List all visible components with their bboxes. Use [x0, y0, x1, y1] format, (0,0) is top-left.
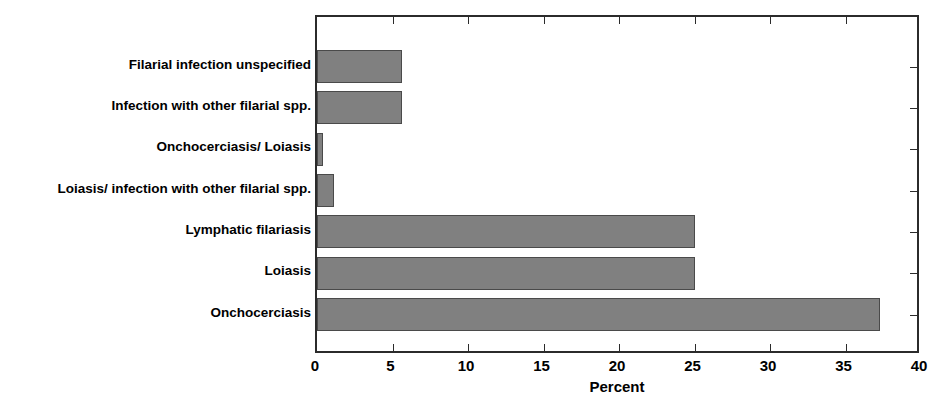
category-label: Infection with other filarial spp.	[111, 98, 311, 113]
x-tick-top	[695, 17, 696, 24]
category-label: Onchocerciasis	[210, 305, 311, 320]
category-label: Lymphatic filariasis	[185, 222, 311, 237]
bar	[317, 174, 334, 207]
x-tick-label: 5	[386, 357, 394, 375]
x-tick	[544, 344, 545, 351]
x-tick-label: 40	[911, 357, 928, 375]
x-tick-label: 10	[458, 357, 475, 375]
category-label: Loiasis/ infection with other filarial s…	[57, 181, 311, 196]
y-tick-right	[910, 273, 917, 274]
x-tick-top	[770, 17, 771, 24]
x-tick	[846, 344, 847, 351]
x-tick-top	[468, 17, 469, 24]
x-tick-label: 0	[311, 357, 319, 375]
x-tick-label: 20	[609, 357, 626, 375]
x-tick-label: 35	[835, 357, 852, 375]
y-tick-right	[910, 108, 917, 109]
x-axis-title: Percent	[589, 378, 644, 395]
bar	[317, 257, 695, 290]
x-tick-top	[846, 17, 847, 24]
x-tick-top	[544, 17, 545, 24]
x-tick-label: 30	[760, 357, 777, 375]
plot-area	[315, 15, 919, 353]
x-tick	[695, 344, 696, 351]
x-tick	[770, 344, 771, 351]
y-tick-right	[910, 315, 917, 316]
category-label: Onchocerciasis/ Loiasis	[156, 139, 311, 154]
y-tick-right	[910, 149, 917, 150]
x-tick-label: 15	[533, 357, 550, 375]
bar	[317, 91, 402, 124]
bar	[317, 133, 323, 166]
x-tick-top	[619, 17, 620, 24]
bar-chart-figure: 0510152025303540 Filarial infection unsp…	[0, 0, 940, 411]
bars-layer	[317, 17, 917, 351]
x-tick	[393, 344, 394, 351]
y-tick-right	[910, 67, 917, 68]
bar	[317, 298, 880, 331]
x-tick-top	[393, 17, 394, 24]
y-tick-right	[910, 191, 917, 192]
x-tick	[619, 344, 620, 351]
bar	[317, 50, 402, 83]
category-label: Loiasis	[264, 263, 311, 278]
x-tick-label: 25	[684, 357, 701, 375]
y-tick-right	[910, 232, 917, 233]
x-tick	[468, 344, 469, 351]
category-label: Filarial infection unspecified	[129, 57, 311, 72]
bar	[317, 215, 695, 248]
